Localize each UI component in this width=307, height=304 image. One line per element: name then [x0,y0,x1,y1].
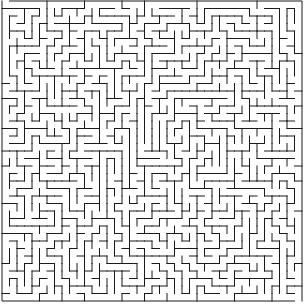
maze-walls [2,1,302,301]
maze [0,0,307,304]
maze-container [0,0,307,304]
